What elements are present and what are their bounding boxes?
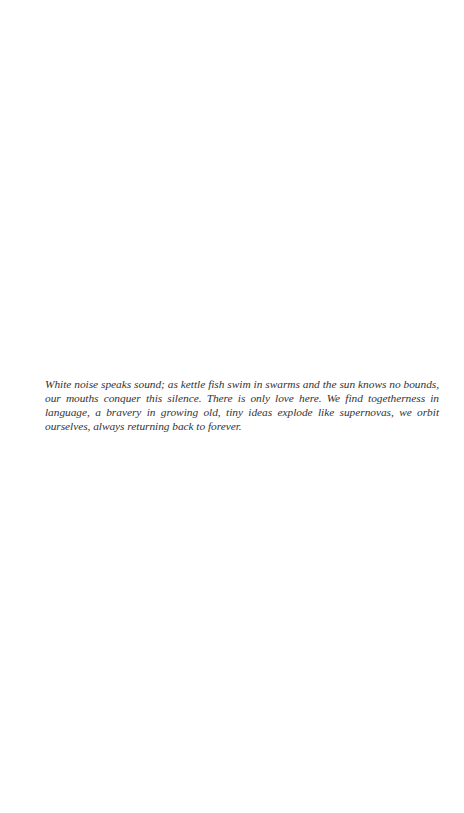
poem-text: White noise speaks sound; as kettle fish… (45, 377, 439, 433)
